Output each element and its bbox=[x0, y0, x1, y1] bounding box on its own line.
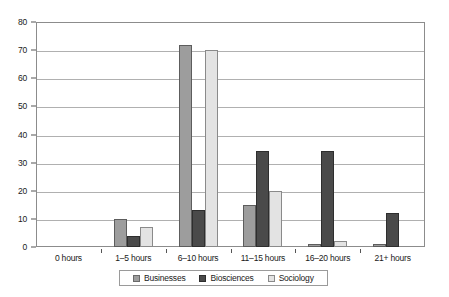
bar bbox=[386, 213, 399, 247]
bar bbox=[114, 219, 127, 247]
x-axis-tick-label: 1–5 hours bbox=[115, 254, 151, 263]
bar bbox=[321, 151, 334, 247]
legend-item[interactable]: Biosciences bbox=[199, 274, 253, 283]
x-axis-tick-mark bbox=[166, 249, 167, 253]
legend-swatch-icon bbox=[268, 275, 275, 282]
bar-group bbox=[36, 22, 101, 247]
x-axis-tick-label: 0 hours bbox=[55, 254, 82, 263]
bar-chart: 01020304050607080 0 hours1–5 hours6–10 h… bbox=[0, 0, 449, 297]
legend-item[interactable]: Businesses bbox=[133, 274, 185, 283]
x-axis-tick-label: 11–15 hours bbox=[241, 254, 285, 263]
legend-item[interactable]: Sociology bbox=[268, 274, 314, 283]
bar bbox=[256, 151, 269, 247]
bar bbox=[334, 241, 347, 247]
bar bbox=[373, 244, 386, 247]
y-axis-tick-label: 60 bbox=[18, 74, 27, 83]
x-axis-tick-label: 21+ hours bbox=[374, 254, 410, 263]
bar-group bbox=[360, 22, 425, 247]
bar bbox=[179, 45, 192, 248]
y-axis-tick-label: 70 bbox=[18, 46, 27, 55]
x-axis-tick-mark bbox=[101, 249, 102, 253]
bar-group bbox=[101, 22, 166, 247]
legend-swatch-icon bbox=[133, 275, 140, 282]
y-axis-tick-label: 50 bbox=[18, 102, 27, 111]
y-axis-tick-label: 10 bbox=[18, 215, 27, 224]
y-axis-tick-label: 0 bbox=[22, 243, 27, 252]
y-axis-tick-label: 30 bbox=[18, 158, 27, 167]
bar-group bbox=[295, 22, 360, 247]
legend-label: Biosciences bbox=[210, 274, 253, 283]
bar bbox=[243, 205, 256, 247]
bar bbox=[308, 244, 321, 247]
y-axis-tick-label: 40 bbox=[18, 130, 27, 139]
y-axis: 01020304050607080 bbox=[0, 0, 36, 265]
x-axis-tick-label: 6–10 hours bbox=[178, 254, 219, 263]
bar bbox=[127, 236, 140, 247]
bars-layer bbox=[36, 22, 425, 247]
legend-swatch-icon bbox=[199, 275, 206, 282]
x-axis: 0 hours1–5 hours6–10 hours11–15 hours16–… bbox=[36, 249, 425, 267]
chart-legend: BusinessesBiosciencesSociology bbox=[119, 270, 328, 286]
x-axis-tick-label: 16–20 hours bbox=[305, 254, 350, 263]
x-axis-tick-mark bbox=[231, 249, 232, 253]
legend-label: Sociology bbox=[279, 274, 314, 283]
bar bbox=[140, 227, 153, 247]
bar-group bbox=[166, 22, 231, 247]
bar bbox=[192, 210, 205, 247]
bar bbox=[269, 191, 282, 247]
y-axis-tick-label: 20 bbox=[18, 187, 27, 196]
bar-group bbox=[231, 22, 296, 247]
y-axis-tick-label: 80 bbox=[18, 18, 27, 27]
legend-label: Businesses bbox=[144, 274, 185, 283]
x-axis-tick-mark bbox=[360, 249, 361, 253]
x-axis-tick-mark bbox=[295, 249, 296, 253]
bar bbox=[205, 50, 218, 247]
